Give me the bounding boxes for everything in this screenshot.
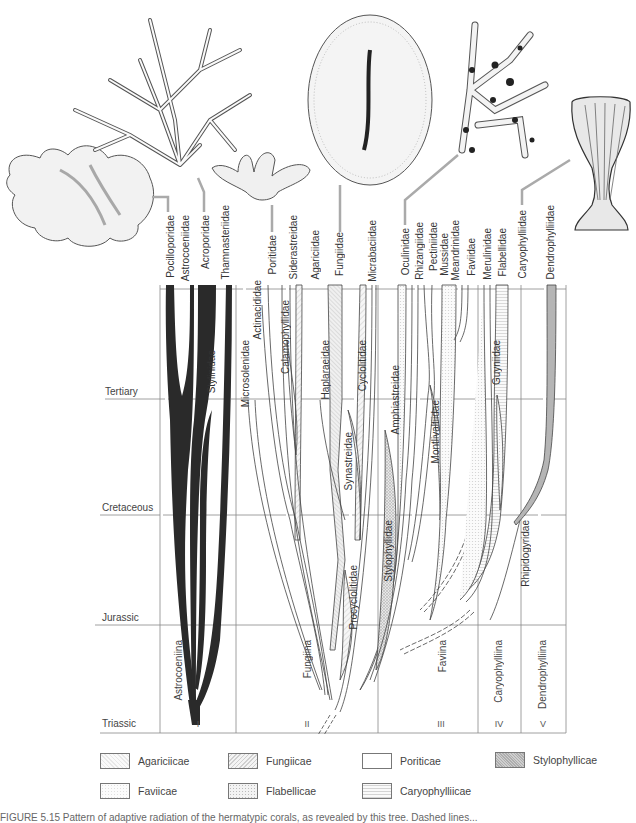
legend-item-faviicae: Faviicae [100,783,177,799]
specimen-dendrophylliidae-illustration [572,97,630,230]
numeral-iii: III [437,719,445,729]
family-label-montlivaltiidae: Montlivaltiidae [430,400,441,463]
legend-item-agariciicae: Agariciicae [100,753,189,769]
family-label-pocilloporidae: Pocilloporidae [165,215,176,278]
specimen-acroporidae-illustration [75,20,250,165]
dendrophylliina-branch [514,285,556,525]
family-label-synastreidae: Synastreidae [343,432,354,490]
period-label-tertiary: Tertiary [105,386,138,397]
family-label-acroporidae: Acroporidae [200,215,211,269]
family-label-guyniidae: Guyniidae [491,340,502,385]
legend-item-caryophylliicae: Caryophylliicae [362,783,471,799]
family-label-caryophylliidae: Caryophylliidae [517,210,528,278]
family-label-astrocoeniidae: Astrocoeniidae [180,215,191,281]
family-label-calamophyllidae: Calamophyllidae [280,300,291,374]
family-label-cyclolitidae: Cyclolitidae [357,340,368,391]
period-label-cretaceous: Cretaceous [102,502,153,513]
family-label-rhizangiidae: Rhizangiidae [414,222,425,280]
family-label-pectiniidae: Pectiniidae [428,222,439,271]
poriticae-swatch [362,753,392,769]
period-label-triassic: Triassic [102,718,136,729]
specimen-pocilloporidae-illustration [7,146,154,246]
specimen-poritidae-illustration [212,153,310,200]
caryophylliicae-swatch [362,783,392,799]
family-label-stylinidae: Stylinidae [206,350,217,393]
family-label-procyclolitidae: Procyclolitidae [348,565,359,629]
flabellicae-swatch [228,783,258,799]
family-label-stylophyllidae: Stylophyllidae [383,520,394,582]
numeral-i: I [197,719,200,729]
faviicae-swatch [100,783,130,799]
family-label-actinacididae: Actinacididae [252,280,263,339]
family-label-dendrophylliidae: Dendrophylliidae [545,205,556,280]
family-label-microsolenidae: Microsolenidae [240,340,251,407]
fungiicae-swatch [228,753,258,769]
family-label-micrabaciidae: Micrabaciidae [367,220,378,282]
numeral-v: V [540,719,546,729]
family-label-oculinidae: Oculinidae [400,228,411,275]
family-label-meandrinidae: Meandrinidae [450,220,461,281]
specimen-fungiidae-illustration [308,15,432,185]
legend-item-fungiicae: Fungiicae [228,753,312,769]
family-label-thamnasteriidae: Thamnasteriidae [220,205,231,279]
legend-item-flabellicae: Flabellicae [228,783,316,799]
suborder-label-astrocoeniina: Astrocoeniina [173,640,184,701]
agariciicae-swatch [100,753,130,769]
family-label-agariciidae: Agariciidae [310,230,321,279]
family-label-flabellidae: Flabellidae [497,228,508,276]
specimen-oculinidae-illustration [462,25,545,155]
family-label-mussidae: Mussidae [439,233,450,276]
family-label-fungiidae: Fungiidae [334,232,345,276]
numeral-ii: II [304,719,309,729]
family-label-siderastreidae: Siderastreidae [288,215,299,279]
family-label-amphiastreidae: Amphiastreidae [390,365,401,434]
suborder-label-faviina: Faviina [437,640,448,672]
suborder-label-caryophylliina: Caryophylliina [493,640,504,703]
suborder-label-dendrophylliina: Dendrophylliina [537,640,548,709]
family-label-merulinidae: Merulinidae [482,228,493,280]
legend-item-poriticae: Poriticae [362,753,441,769]
family-label-rhipidogyridae: Rhipidogyridae [520,520,531,587]
family-label-poritidae: Poritidae [267,235,278,274]
numeral-iv: IV [495,719,504,729]
period-label-jurassic: Jurassic [102,612,139,623]
family-label-haplaraeidae: Haplaraeidae [320,340,331,400]
stylophyllicae-swatch [495,752,525,768]
family-label-faviidae: Faviidae [466,238,477,276]
figure-caption: FIGURE 5.15 Pattern of adaptive radiatio… [0,812,477,823]
suborder-label-fungiina: Fungiina [302,640,313,678]
legend-item-stylophyllicae: Stylophyllicae [495,752,597,768]
faviina-branches [360,285,472,690]
